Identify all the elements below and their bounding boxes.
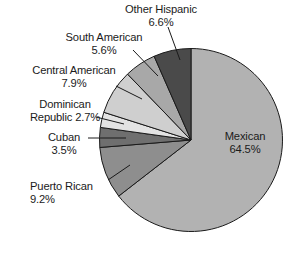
slice-label-puerto-rican-name: Puerto Rican — [30, 180, 93, 192]
slice-label-cuban-pct: 3.5% — [26, 144, 102, 157]
slice-label-dominican-republic-line1: Dominican — [39, 98, 91, 110]
slice-label-other-hispanic-name: Other Hispanic — [125, 3, 197, 15]
slice-label-mexican-pct: 64.5% — [212, 143, 278, 156]
slice-label-mexican: Mexican 64.5% — [212, 130, 278, 156]
slice-label-puerto-rican-pct: 9.2% — [30, 193, 140, 206]
slice-label-dominican-republic-line2: Republic 2.7% — [2, 111, 128, 124]
slice-label-central-american: Central American 7.9% — [14, 64, 134, 90]
slice-label-central-american-pct: 7.9% — [14, 77, 134, 90]
slice-label-other-hispanic: Other Hispanic 6.6% — [106, 3, 216, 29]
slice-label-central-american-name: Central American — [32, 64, 115, 76]
pie-chart: Other Hispanic 6.6% South American 5.6% … — [0, 0, 294, 253]
slice-label-cuban: Cuban 3.5% — [26, 131, 102, 157]
slice-label-other-hispanic-pct: 6.6% — [106, 16, 216, 29]
slice-label-south-american-pct: 5.6% — [46, 44, 162, 57]
slice-label-puerto-rican: Puerto Rican 9.2% — [30, 180, 140, 206]
slice-label-cuban-name: Cuban — [48, 131, 80, 143]
slice-label-south-american-name: South American — [66, 31, 143, 43]
slice-label-mexican-name: Mexican — [225, 130, 266, 142]
slice-label-south-american: South American 5.6% — [46, 31, 162, 57]
slice-label-dominican-republic: Dominican Republic 2.7% — [2, 98, 128, 124]
